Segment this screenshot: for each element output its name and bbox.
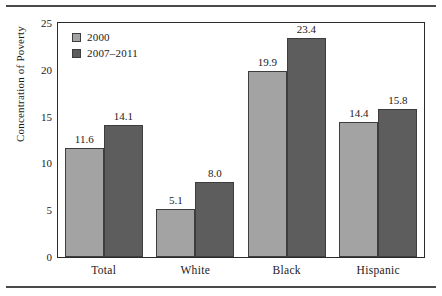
- legend-item: 2000: [72, 30, 138, 44]
- figure-chart: Concentration of Poverty 0510152025 11.6…: [0, 0, 442, 296]
- legend-label: 2007–2011: [87, 47, 138, 59]
- y-tick-label: 20: [0, 64, 52, 76]
- legend-label: 2000: [87, 31, 110, 43]
- x-tick-label: Total: [91, 264, 116, 276]
- y-tick-label: 15: [0, 111, 52, 123]
- bottom-divider-rule: [6, 286, 436, 288]
- legend-swatch-icon: [72, 49, 81, 58]
- bar-hispanic-1: [378, 109, 417, 257]
- y-tick-label: 10: [0, 157, 52, 169]
- legend-item: 2007–2011: [72, 46, 138, 60]
- x-tick-label: Hispanic: [357, 264, 400, 276]
- x-tick-label: Black: [273, 264, 301, 276]
- x-tick-label: White: [180, 264, 210, 276]
- y-tick-label: 0: [0, 251, 52, 263]
- bar-value-label: 15.8: [388, 94, 407, 106]
- bar-hispanic-0: [339, 122, 378, 257]
- chart-legend: 20002007–2011: [72, 30, 138, 62]
- y-tick-label: 5: [0, 204, 52, 216]
- bar-value-label: 14.4: [349, 107, 368, 119]
- top-divider-rule: [6, 5, 436, 7]
- legend-swatch-icon: [72, 33, 81, 42]
- y-tick-label: 25: [0, 17, 52, 29]
